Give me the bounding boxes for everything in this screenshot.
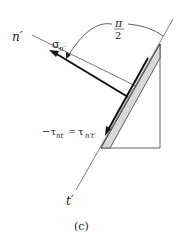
shear-lhs-subscript: nt (56, 132, 64, 140)
n-axis-line (32, 35, 148, 92)
figure-caption: (c) (74, 220, 89, 233)
shear-equals: = (68, 126, 76, 137)
angle-numerator: π (114, 17, 123, 30)
shear-lhs: −τ (42, 126, 56, 137)
shear-rhs-subscript: n′t′ (85, 132, 96, 140)
normal-arrowhead-icon (49, 50, 59, 57)
n-axis-label: n′ (12, 30, 23, 44)
normal-stress-arrow (55, 53, 128, 97)
angle-denominator: 2 (115, 30, 121, 41)
angle-arc (68, 24, 112, 56)
shear-rhs: τ (78, 126, 84, 137)
t-axis-label: t′ (66, 194, 74, 208)
stress-element-diagram: n′ σ n′ π 2 −τ nt = τ n′t′ t′ (c) (0, 0, 179, 240)
angle-arc-right (128, 24, 163, 36)
normal-stress-subscript: n′ (59, 45, 66, 53)
